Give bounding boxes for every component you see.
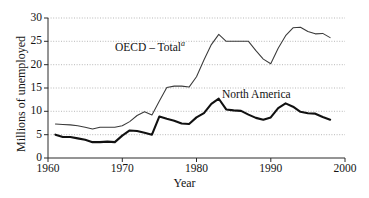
series-label-oecd-total: OECD – Totala xyxy=(115,39,185,53)
xtick-label-1980: 1980 xyxy=(177,163,217,175)
series-label-oecd-text: OECD – Total xyxy=(115,41,181,53)
series-label-north-america: North America xyxy=(222,88,291,100)
series-line-oecd-total xyxy=(55,27,330,129)
series-line-north-america xyxy=(55,99,330,142)
chart-figure: 30 25 20 15 10 5 0 1960 1970 1980 1990 2… xyxy=(0,0,369,198)
y-axis-title: Millions of unemployed xyxy=(14,36,29,152)
y-axis-ticks xyxy=(44,18,48,158)
xtick-label-1970: 1970 xyxy=(102,163,142,175)
x-axis-title: Year xyxy=(0,176,369,191)
ytick-label-30: 30 xyxy=(20,12,42,24)
xtick-label-1990: 1990 xyxy=(251,163,291,175)
xtick-label-1960: 1960 xyxy=(28,163,68,175)
xtick-label-2000: 2000 xyxy=(325,163,365,175)
footnote-marker-a: a xyxy=(181,39,185,48)
